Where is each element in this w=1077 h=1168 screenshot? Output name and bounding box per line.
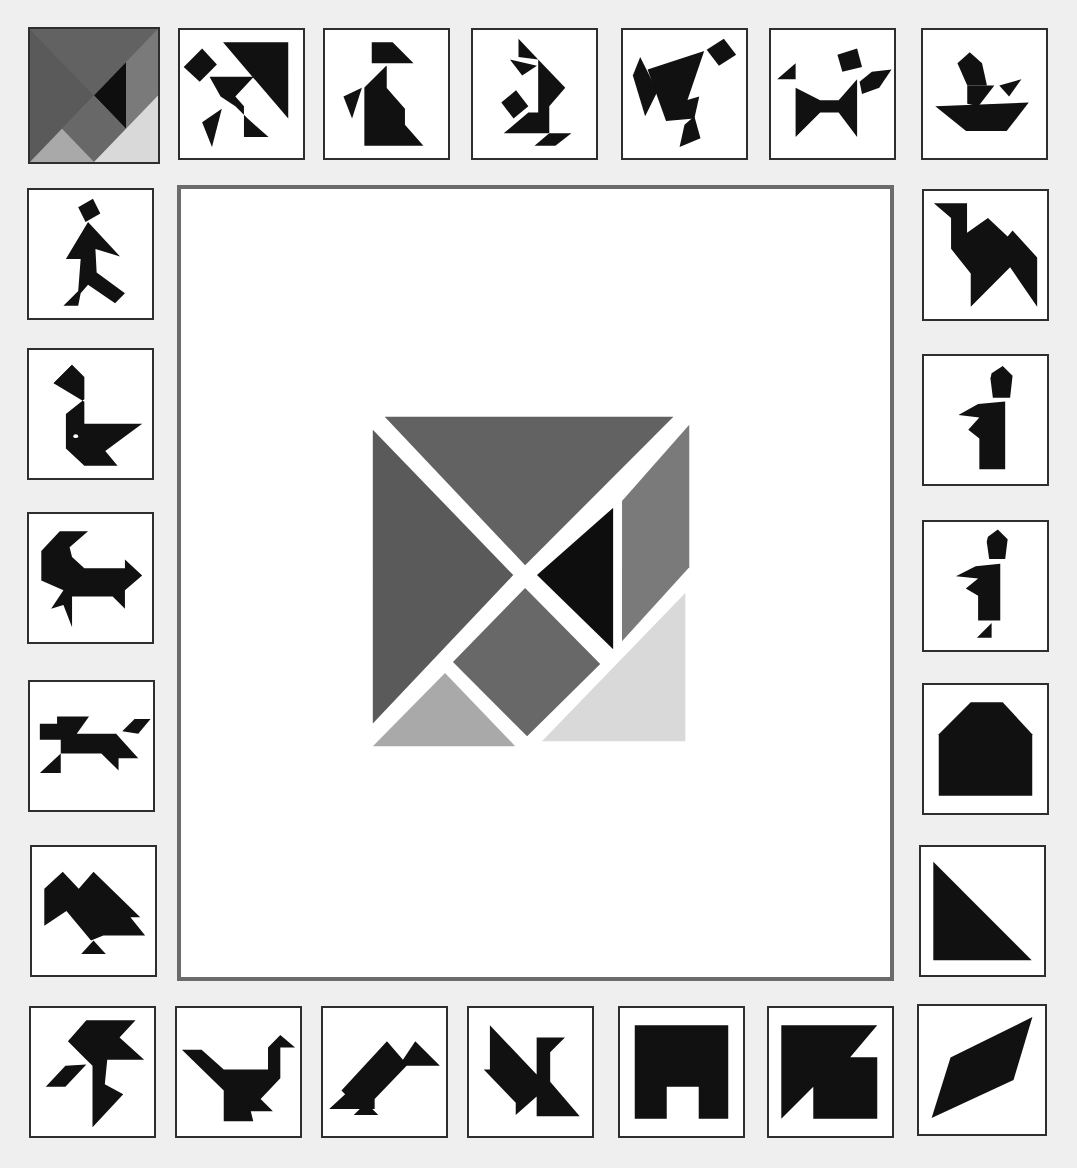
- tile-kneeling-figure[interactable]: Kneeling figure: [471, 28, 598, 160]
- tangram-square-icon: [30, 29, 158, 162]
- tile-rhombus[interactable]: Rhombus: [917, 1004, 1047, 1136]
- goose-silhouette-icon: [177, 1008, 300, 1136]
- rhombus-silhouette-icon: [919, 1006, 1045, 1134]
- tile-kicking-man[interactable]: Kicking man: [178, 28, 305, 160]
- tile-vulture[interactable]: Vulture: [321, 1006, 448, 1138]
- running-dog-silhouette-icon: [30, 682, 153, 810]
- tile-square-selected[interactable]: Square (selected): [28, 27, 160, 164]
- tile-standing-man-with-foot[interactable]: Standing man with foot: [922, 520, 1049, 652]
- tile-boat-with-man[interactable]: Boat with man: [921, 28, 1048, 160]
- goat-silhouette-icon: [29, 514, 152, 642]
- vulture-silhouette-icon: [323, 1008, 446, 1136]
- camel-silhouette-icon: [924, 191, 1047, 319]
- gate-silhouette-icon: [620, 1008, 743, 1136]
- standing-man-silhouette-icon: [924, 356, 1047, 484]
- house-silhouette-icon: [924, 685, 1047, 813]
- walking-man-silhouette-icon: [29, 190, 152, 318]
- tile-camel[interactable]: Camel: [922, 189, 1049, 321]
- kneeling-figure-silhouette-icon: [473, 30, 596, 158]
- seated-woman-silhouette-icon: [325, 30, 448, 158]
- tile-walking-man[interactable]: Walking man: [27, 188, 154, 320]
- notched-square-silhouette-icon: [769, 1008, 892, 1136]
- tile-triangle[interactable]: Triangle: [919, 845, 1046, 977]
- tile-bird-of-prey[interactable]: Bird of prey: [29, 1006, 156, 1138]
- game-title: Tangram Puzzle: [0, 0, 1, 1]
- tile-house[interactable]: House: [922, 683, 1049, 815]
- boat-silhouette-icon: [923, 30, 1046, 158]
- tile-fish[interactable]: Fish: [467, 1006, 594, 1138]
- tile-goose[interactable]: Goose: [175, 1006, 302, 1138]
- swan-silhouette-icon: [29, 350, 152, 478]
- tile-gate[interactable]: Gate: [618, 1006, 745, 1138]
- dancer-silhouette-icon: [771, 30, 894, 158]
- standing-man-foot-silhouette-icon: [924, 522, 1047, 650]
- puzzle-board[interactable]: Tangram square (solved): [177, 185, 894, 981]
- tumbling-figure-silhouette-icon: [623, 30, 746, 158]
- tile-standing-man[interactable]: Standing man: [922, 354, 1049, 486]
- tile-seated-woman[interactable]: Seated woman: [323, 28, 450, 160]
- fish-silhouette-icon: [469, 1008, 592, 1136]
- mountains-silhouette-icon: [32, 847, 155, 975]
- tile-running-dog[interactable]: Running dog: [28, 680, 155, 812]
- bird-of-prey-silhouette-icon: [31, 1008, 154, 1136]
- tile-swan[interactable]: Swan: [27, 348, 154, 480]
- triangle-silhouette-icon: [921, 847, 1044, 975]
- tile-mountains[interactable]: Mountains: [30, 845, 157, 977]
- kicking-man-silhouette-icon: [180, 30, 303, 158]
- tile-goat[interactable]: Goat: [27, 512, 154, 644]
- tangram-pieces: [181, 189, 890, 977]
- tile-notched-square[interactable]: Notched square: [767, 1006, 894, 1138]
- tile-dancer[interactable]: Dancer: [769, 28, 896, 160]
- tile-tumbling-figure[interactable]: Tumbling figure: [621, 28, 748, 160]
